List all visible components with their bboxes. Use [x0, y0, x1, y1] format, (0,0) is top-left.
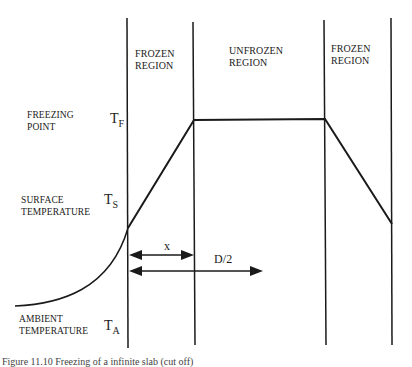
region-label-unfrozen: UNFROZEN REGION: [229, 45, 283, 69]
ambient-temperature-symbol: TA: [104, 319, 120, 338]
label-line1: SURFACE: [21, 194, 90, 206]
region-label-line1: FROZEN: [135, 48, 175, 60]
freezing-point-symbol: TF: [110, 112, 124, 131]
half-diameter-arrowhead-left-icon: [129, 266, 142, 276]
surface-temperature-label: SURFACE TEMPERATURE: [21, 194, 90, 218]
half-diameter-arrowhead-right-icon: [250, 266, 263, 276]
boundary-line-left-surface: [127, 18, 128, 348]
region-label-line2: REGION: [229, 57, 283, 69]
symbol-letter: T: [104, 192, 113, 207]
symbol-subscript: A: [113, 325, 120, 336]
symbol-letter: T: [104, 318, 113, 333]
ambient-to-surface-curve: [15, 228, 128, 306]
label-line2: TEMPERATURE: [21, 206, 90, 218]
boundary-line-freezing-front-right: [324, 20, 326, 345]
symbol-subscript: F: [119, 118, 125, 129]
region-label-frozen-right: FROZEN REGION: [331, 43, 371, 67]
surface-temperature-symbol: TS: [104, 193, 118, 212]
x-arrowhead-right-icon: [181, 250, 194, 260]
freezing-point-label: FREEZING POINT: [27, 109, 74, 133]
x-dimension-label: x: [164, 240, 170, 252]
region-label-line2: REGION: [331, 55, 371, 67]
region-label-frozen-left: FROZEN REGION: [135, 48, 175, 72]
region-label-line1: FROZEN: [331, 43, 371, 55]
x-arrowhead-left-icon: [129, 250, 142, 260]
label-line1: FREEZING: [27, 109, 74, 121]
boundary-line-right-surface: [391, 18, 392, 345]
figure-caption: Figure 11.10 Freezing of a infinite slab…: [2, 356, 193, 367]
temperature-profile-line: [128, 119, 392, 228]
boundary-line-freezing-front-left: [193, 22, 195, 345]
half-diameter-dimension-label: D/2: [214, 253, 232, 265]
label-line2: POINT: [27, 121, 74, 133]
symbol-letter: T: [110, 111, 119, 126]
label-line1: AMBIENT: [19, 313, 88, 325]
region-label-line2: REGION: [135, 60, 175, 72]
label-line2: TEMPERATURE: [19, 325, 88, 337]
symbol-subscript: S: [113, 199, 119, 210]
region-label-line1: UNFROZEN: [229, 45, 283, 57]
ambient-temperature-label: AMBIENT TEMPERATURE: [19, 313, 88, 337]
